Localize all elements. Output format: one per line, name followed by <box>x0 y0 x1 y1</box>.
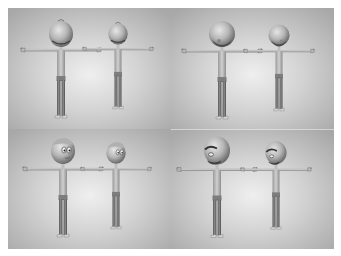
panel-top-right <box>171 8 334 129</box>
head-icon <box>204 137 230 165</box>
render-view-head-down <box>171 8 334 129</box>
head-icon <box>51 138 75 164</box>
panel-bottom-right <box>171 129 334 249</box>
render-view-front-face <box>8 129 171 249</box>
panel-top-left <box>8 8 171 129</box>
render-view-head-up <box>8 8 171 129</box>
head-icon <box>106 142 125 163</box>
render-grid <box>8 8 334 249</box>
render-view-angry-face <box>171 129 334 249</box>
panel-bottom-left <box>8 129 171 249</box>
head-icon <box>209 21 235 47</box>
